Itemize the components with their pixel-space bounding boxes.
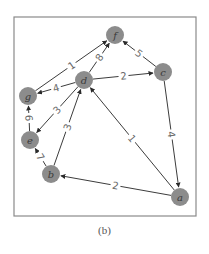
edge-weight-label: 1	[64, 58, 79, 74]
svg-text:6: 6	[23, 115, 34, 122]
node-d: d	[75, 71, 93, 89]
node-b: b	[42, 165, 60, 183]
edge-a-to-d: 1	[90, 88, 174, 190]
edge-a-to-b: 2	[61, 176, 171, 196]
node-e: e	[21, 131, 39, 149]
edge-weight-label: 2	[118, 70, 129, 83]
node-f: f	[106, 26, 124, 44]
edge-weight-label: 6	[23, 113, 35, 124]
edge-weight-label: 7	[33, 150, 48, 165]
node-label: c	[160, 67, 166, 78]
node-c: c	[154, 63, 172, 81]
node-a: a	[171, 188, 189, 206]
node-label: e	[27, 135, 33, 146]
node-label: b	[48, 169, 54, 180]
edge-weight-label: 4	[50, 81, 63, 95]
edge-weight-label: 8	[92, 50, 108, 65]
edge-c-to-f: 5	[123, 41, 156, 66]
nodes-layer: fcdgeba	[19, 26, 189, 206]
edge-b-to-d: 3	[54, 89, 81, 165]
node-label: g	[25, 91, 31, 102]
edge-weight-label: 1	[124, 131, 140, 146]
node-g: g	[19, 87, 37, 105]
edge-weight-label: 4	[165, 129, 178, 141]
edge-e-to-g: 6	[23, 106, 35, 131]
edge-weight-label: 5	[131, 46, 146, 62]
edge-d-to-g: 4	[38, 81, 76, 95]
svg-text:2: 2	[120, 70, 127, 82]
node-label: d	[81, 75, 87, 86]
figure-caption: (b)	[0, 224, 209, 236]
directed-weighted-graph: 185243314267 fcdgeba	[0, 0, 209, 254]
edge-d-to-f: 8	[89, 43, 109, 72]
edge-b-to-e: 7	[33, 149, 48, 167]
node-label: a	[177, 192, 183, 203]
edge-c-to-a: 4	[164, 81, 178, 187]
edge-weight-label: 3	[60, 120, 75, 133]
edge-d-to-c: 2	[93, 70, 153, 83]
edge-weight-label: 2	[110, 179, 122, 193]
